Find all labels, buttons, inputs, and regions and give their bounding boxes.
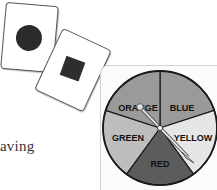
label-green: GREEN [112, 133, 144, 143]
label-blue: BLUE [170, 103, 195, 113]
label-yellow: YELLOW [174, 133, 213, 143]
circle-shape [15, 24, 43, 52]
spinner: ORANGE BLUE YELLOW RED GREEN [90, 68, 217, 190]
label-red: RED [150, 159, 170, 169]
square-shape [60, 56, 86, 82]
text-fragment: aving [0, 138, 34, 155]
